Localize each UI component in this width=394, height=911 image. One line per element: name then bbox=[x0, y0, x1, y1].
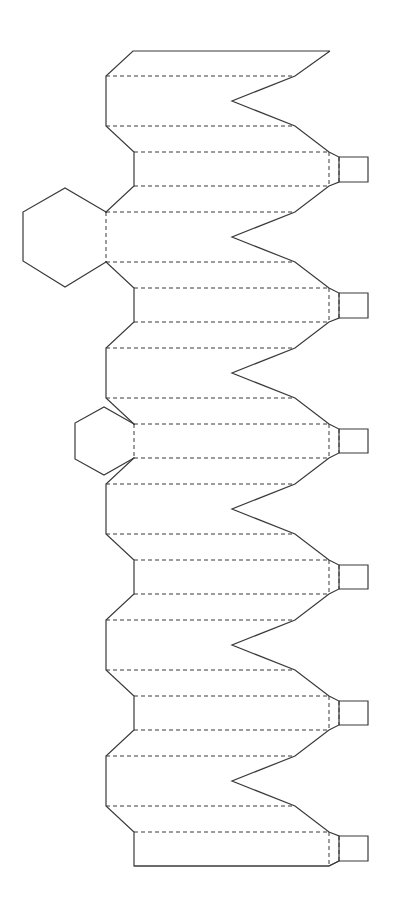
glue-tab bbox=[339, 836, 368, 861]
bottom-tab-edge bbox=[329, 861, 339, 866]
large-hexagon bbox=[23, 188, 106, 287]
paper-net-diagram: Paper net template with cut and fold lin… bbox=[0, 0, 394, 911]
hexagon-end-caps bbox=[23, 188, 134, 475]
glue-tab bbox=[339, 701, 368, 725]
glue-tab bbox=[339, 429, 368, 453]
glue-tab bbox=[339, 157, 368, 182]
glue-tab bbox=[339, 565, 368, 589]
glue-tabs bbox=[339, 157, 368, 861]
small-hexagon bbox=[75, 407, 134, 475]
glue-tab bbox=[339, 293, 368, 318]
fold-lines bbox=[106, 76, 339, 866]
